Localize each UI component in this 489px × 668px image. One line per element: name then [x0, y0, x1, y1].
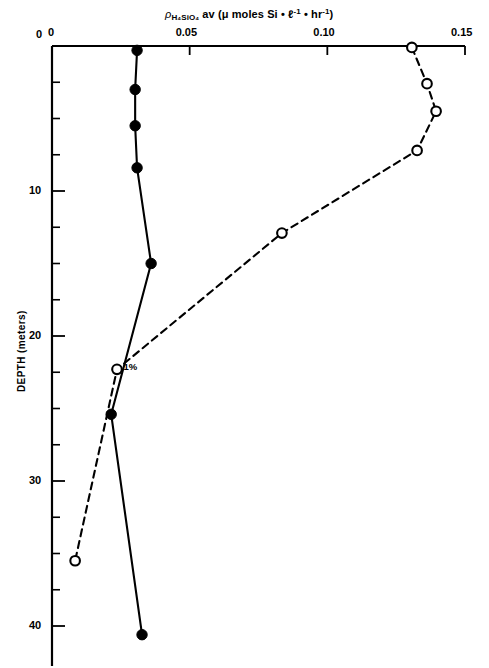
data-point-dashed-open: [407, 43, 417, 53]
series-line-dashed-open: [75, 47, 436, 560]
figure-panel: ρH₄SiO₄ av (μ moles Si • ℓ-1 • hr-1) DEP…: [0, 0, 489, 668]
axis-ticks: [52, 46, 465, 626]
data-point-dashed-open: [422, 79, 432, 89]
data-point-dashed-open: [431, 106, 441, 116]
data-point-solid-filled: [132, 45, 142, 55]
data-point-solid-filled: [146, 258, 156, 268]
data-point-dashed-open: [70, 556, 80, 566]
data-point-dashed-open: [412, 146, 422, 156]
data-point-dashed-open: [277, 228, 287, 238]
data-series-markers: [70, 43, 441, 640]
plot-area: [0, 0, 489, 668]
data-point-solid-filled: [130, 121, 140, 131]
data-point-solid-filled: [132, 163, 142, 173]
axis-lines: [52, 46, 465, 666]
data-point-solid-filled: [130, 84, 140, 94]
series-line-solid-filled: [111, 50, 151, 634]
data-point-dashed-open: [112, 365, 122, 375]
data-point-solid-filled: [137, 630, 147, 640]
data-point-solid-filled: [106, 409, 116, 419]
data-series-lines: [75, 47, 436, 634]
